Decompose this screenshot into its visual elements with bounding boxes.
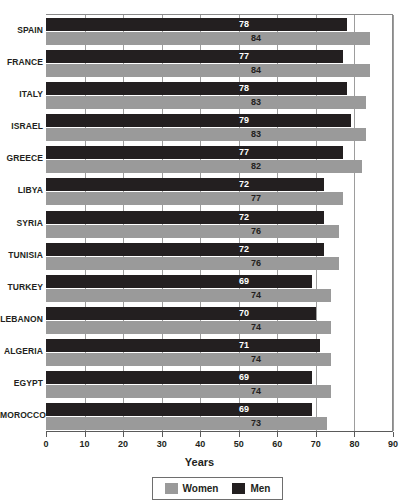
bar-women xyxy=(46,321,331,334)
legend-swatch-women-icon xyxy=(165,483,178,494)
bar-value-men: 72 xyxy=(234,211,254,224)
bar-men xyxy=(46,275,312,288)
bar-value-women: 84 xyxy=(246,64,266,77)
category-label-greece: GREECE xyxy=(0,144,43,173)
gridline-90 xyxy=(393,15,394,431)
life-expectancy-bar-chart: SPAINFRANCEITALYISRAELGREECELIBYASYRIATU… xyxy=(0,0,399,502)
x-tick-mark-80 xyxy=(354,432,355,437)
bar-group: 7784 xyxy=(46,49,392,78)
x-tick-label-30: 30 xyxy=(150,439,174,449)
category-label-italy: ITALY xyxy=(0,80,43,109)
bar-group: 7782 xyxy=(46,145,392,174)
x-tick-label-80: 80 xyxy=(342,439,366,449)
x-axis: 0102030405060708090 xyxy=(46,432,393,456)
bar-group: 7174 xyxy=(46,338,392,367)
bar-value-men: 69 xyxy=(234,275,254,288)
bar-women xyxy=(46,64,370,77)
category-label-algeria: ALGERIA xyxy=(0,337,43,366)
bar-group: 6973 xyxy=(46,402,392,431)
category-label-turkey: TURKEY xyxy=(0,273,43,302)
bar-value-women: 73 xyxy=(246,417,266,430)
x-tick-mark-90 xyxy=(393,432,394,437)
bar-value-women: 74 xyxy=(246,353,266,366)
category-label-syria: SYRIA xyxy=(0,209,43,238)
bar-group: 7983 xyxy=(46,113,392,142)
category-label-libya: LIBYA xyxy=(0,176,43,205)
bar-group: 6974 xyxy=(46,274,392,303)
bar-men xyxy=(46,50,343,63)
bar-men xyxy=(46,403,312,416)
bar-value-men: 72 xyxy=(234,243,254,256)
bar-men xyxy=(46,178,324,191)
legend-item-men: Men xyxy=(232,483,270,494)
legend: Women Men xyxy=(152,477,283,500)
category-label-morocco: MOROCCO xyxy=(0,401,43,430)
category-label-tunisia: TUNISIA xyxy=(0,241,43,270)
bar-women xyxy=(46,160,362,173)
x-tick-mark-60 xyxy=(277,432,278,437)
bar-value-women: 76 xyxy=(246,225,266,238)
x-tick-label-50: 50 xyxy=(227,439,251,449)
bar-group: 7074 xyxy=(46,306,392,335)
bar-value-women: 74 xyxy=(246,289,266,302)
bar-value-men: 79 xyxy=(234,114,254,127)
x-tick-mark-40 xyxy=(200,432,201,437)
bar-value-men: 78 xyxy=(234,18,254,31)
bar-value-women: 77 xyxy=(246,192,266,205)
bar-value-women: 74 xyxy=(246,385,266,398)
bar-men xyxy=(46,339,320,352)
bar-women xyxy=(46,32,370,45)
x-tick-label-10: 10 xyxy=(73,439,97,449)
category-label-france: FRANCE xyxy=(0,48,43,77)
plot-area: 7884778478837983778272777276727669747074… xyxy=(46,14,393,432)
x-axis-title: Years xyxy=(0,456,399,468)
bar-group: 7883 xyxy=(46,81,392,110)
x-tick-label-90: 90 xyxy=(381,439,399,449)
bar-group: 7276 xyxy=(46,210,392,239)
x-tick-mark-10 xyxy=(85,432,86,437)
bar-women xyxy=(46,192,343,205)
x-tick-mark-70 xyxy=(316,432,317,437)
bar-value-men: 77 xyxy=(234,50,254,63)
bar-women xyxy=(46,96,366,109)
bar-value-men: 69 xyxy=(234,371,254,384)
bar-value-women: 74 xyxy=(246,321,266,334)
bar-women xyxy=(46,385,331,398)
bar-value-men: 71 xyxy=(234,339,254,352)
category-label-egypt: EGYPT xyxy=(0,369,43,398)
bar-women xyxy=(46,289,331,302)
bar-series-container: 7884778478837983778272777276727669747074… xyxy=(46,15,392,431)
x-tick-label-0: 0 xyxy=(34,439,58,449)
bar-men xyxy=(46,371,312,384)
legend-label-women: Women xyxy=(183,483,219,494)
bar-group: 7276 xyxy=(46,242,392,271)
x-tick-label-70: 70 xyxy=(304,439,328,449)
bar-women xyxy=(46,417,327,430)
category-label-lebanon: LEBANON xyxy=(0,305,43,334)
bar-women xyxy=(46,353,331,366)
bar-value-women: 84 xyxy=(246,32,266,45)
bar-group: 7277 xyxy=(46,177,392,206)
x-tick-mark-20 xyxy=(123,432,124,437)
x-tick-label-20: 20 xyxy=(111,439,135,449)
legend-item-women: Women xyxy=(165,483,219,494)
category-axis-labels: SPAINFRANCEITALYISRAELGREECELIBYASYRIATU… xyxy=(0,14,43,432)
bar-men xyxy=(46,18,347,31)
bar-men xyxy=(46,211,324,224)
category-label-spain: SPAIN xyxy=(0,16,43,45)
x-tick-label-60: 60 xyxy=(265,439,289,449)
x-tick-mark-50 xyxy=(239,432,240,437)
bar-men xyxy=(46,243,324,256)
bar-men xyxy=(46,146,343,159)
bar-value-women: 83 xyxy=(246,96,266,109)
bar-group: 6974 xyxy=(46,370,392,399)
bar-value-men: 72 xyxy=(234,178,254,191)
bar-value-women: 83 xyxy=(246,128,266,141)
legend-swatch-men-icon xyxy=(232,483,245,494)
bar-value-men: 70 xyxy=(234,307,254,320)
bar-value-men: 69 xyxy=(234,403,254,416)
x-tick-label-40: 40 xyxy=(188,439,212,449)
x-tick-mark-30 xyxy=(162,432,163,437)
bar-women xyxy=(46,128,366,141)
bar-value-women: 76 xyxy=(246,257,266,270)
